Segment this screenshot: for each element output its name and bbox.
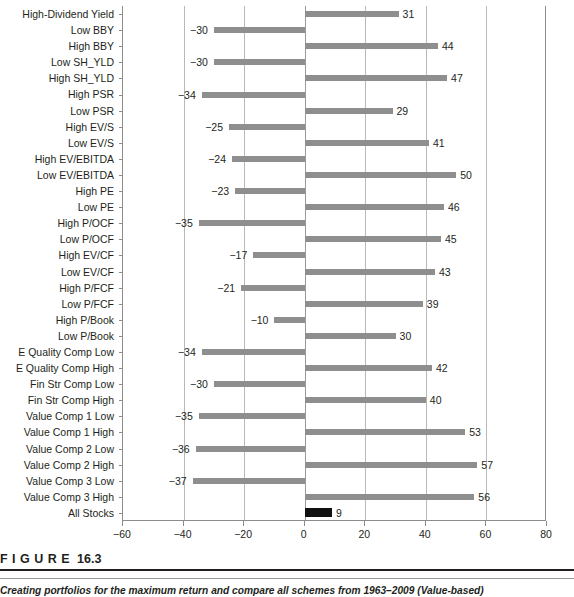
- x-tick-label-20: 20: [358, 528, 370, 540]
- chart-row: −25: [123, 119, 545, 135]
- chart-row: −37: [123, 473, 545, 489]
- category-tick: [119, 481, 123, 482]
- bar-high-ev-cf[interactable]: [253, 252, 304, 258]
- category-tick: [119, 46, 123, 47]
- chart-row: 43: [123, 264, 545, 280]
- category-tick: [119, 320, 123, 321]
- bar-value-label: 45: [445, 234, 457, 245]
- chart-row: −35: [123, 408, 545, 424]
- category-label-e-quality-comp-high: E Quality Comp High: [16, 360, 114, 376]
- category-label-high-psr: High PSR: [68, 86, 114, 102]
- x-tick-80: [546, 521, 547, 526]
- bar-value-label: 53: [469, 427, 481, 438]
- bar-fin-str-comp-high[interactable]: [305, 397, 426, 403]
- bar-all-stocks[interactable]: [305, 508, 332, 517]
- figure-heading: F I G U R E16.3: [0, 552, 574, 569]
- category-label-fin-str-comp-high: Fin Str Comp High: [28, 392, 114, 408]
- category-tick: [119, 400, 123, 401]
- category-tick: [119, 513, 123, 514]
- bar-low-p-fcf[interactable]: [305, 301, 423, 307]
- bar-value-label: 9: [336, 508, 342, 519]
- category-tick: [119, 223, 123, 224]
- bar-value-label: 44: [442, 41, 454, 52]
- category-tick: [119, 239, 123, 240]
- chart-row: −34: [123, 86, 545, 102]
- category-tick: [119, 288, 123, 289]
- category-label-value-comp-2-high: Value Comp 2 High: [24, 457, 114, 473]
- caption-rule-thin: [0, 578, 574, 579]
- x-tick--20: [243, 521, 244, 526]
- category-tick: [119, 384, 123, 385]
- x-tick--40: [183, 521, 184, 526]
- x-tick-label--20: −20: [234, 528, 252, 540]
- bar-low-sh-yld[interactable]: [214, 59, 305, 65]
- chart-row: 30: [123, 328, 545, 344]
- bar-high-ev-s[interactable]: [229, 124, 305, 130]
- bar-high-pe[interactable]: [235, 188, 305, 194]
- x-tick-40: [425, 521, 426, 526]
- bar-value-label: −34: [178, 347, 196, 358]
- chart-row: −35: [123, 215, 545, 231]
- bar-e-quality-comp-low[interactable]: [202, 349, 305, 355]
- category-label-high-p-book: High P/Book: [56, 312, 114, 328]
- bar-value-label: 30: [400, 331, 412, 342]
- bar-high-sh-yld[interactable]: [305, 75, 447, 81]
- x-tick-20: [364, 521, 365, 526]
- x-tick-0: [304, 521, 305, 526]
- category-label-all-stocks: All Stocks: [68, 505, 114, 521]
- category-tick: [119, 368, 123, 369]
- x-tick-label-60: 60: [480, 528, 492, 540]
- bar-high-bby[interactable]: [305, 43, 438, 49]
- x-tick-label-80: 80: [540, 528, 552, 540]
- bar-low-p-book[interactable]: [305, 333, 396, 339]
- bar-value-comp-2-low[interactable]: [196, 446, 305, 452]
- category-label-high-ev-s: High EV/S: [66, 119, 114, 135]
- category-tick: [119, 95, 123, 96]
- bar-low-pe[interactable]: [305, 204, 444, 210]
- category-tick: [119, 432, 123, 433]
- bar-value-label: −35: [175, 218, 193, 229]
- category-tick: [119, 449, 123, 450]
- category-tick: [119, 497, 123, 498]
- bar-high-p-fcf[interactable]: [241, 285, 305, 291]
- category-label-high-dividend-yield: High-Dividend Yield: [22, 6, 114, 22]
- bar-value-comp-3-high[interactable]: [305, 494, 475, 500]
- bar-value-label: −37: [169, 476, 187, 487]
- bar-value-label: 29: [397, 105, 409, 116]
- category-label-high-p-fcf: High P/FCF: [59, 280, 114, 296]
- figure-caption-text: Creating portfolios for the maximum retu…: [0, 584, 574, 597]
- bar-low-psr[interactable]: [305, 108, 393, 114]
- bar-high-p-ocf[interactable]: [199, 220, 305, 226]
- category-label-high-ev-cf: High EV/CF: [59, 247, 114, 263]
- bar-low-p-ocf[interactable]: [305, 236, 441, 242]
- bar-value-label: −24: [208, 154, 226, 165]
- bar-low-ev-cf[interactable]: [305, 269, 435, 275]
- category-label-low-sh-yld: Low SH_YLD: [51, 54, 114, 70]
- bar-value-label: 39: [427, 298, 439, 309]
- category-tick: [119, 352, 123, 353]
- x-tick-label-40: 40: [419, 528, 431, 540]
- bar-high-p-book[interactable]: [274, 317, 304, 323]
- chart-row: 57: [123, 457, 545, 473]
- bar-value-comp-1-low[interactable]: [199, 413, 305, 419]
- bar-fin-str-comp-low[interactable]: [214, 381, 305, 387]
- bar-value-comp-3-low[interactable]: [193, 478, 305, 484]
- bar-high-dividend-yield[interactable]: [305, 11, 399, 17]
- x-tick-label--60: −60: [113, 528, 131, 540]
- bar-low-ev-ebitda[interactable]: [305, 172, 456, 178]
- bar-e-quality-comp-high[interactable]: [305, 365, 432, 371]
- bar-value-comp-1-high[interactable]: [305, 429, 466, 435]
- bar-high-psr[interactable]: [202, 92, 305, 98]
- chart-row: 44: [123, 38, 545, 54]
- bar-high-ev-ebitda[interactable]: [232, 156, 305, 162]
- category-tick: [119, 336, 123, 337]
- bar-low-ev-s[interactable]: [305, 140, 429, 146]
- bar-low-bby[interactable]: [214, 27, 305, 33]
- chart-row: −24: [123, 151, 545, 167]
- category-label-high-p-ocf: High P/OCF: [57, 215, 114, 231]
- chart-row: −34: [123, 344, 545, 360]
- category-axis-labels: High-Dividend YieldLow BBYHigh BBYLow SH…: [0, 6, 118, 521]
- bar-value-label: 57: [481, 459, 493, 470]
- category-label-value-comp-3-low: Value Comp 3 Low: [26, 473, 114, 489]
- bar-value-comp-2-high[interactable]: [305, 462, 478, 468]
